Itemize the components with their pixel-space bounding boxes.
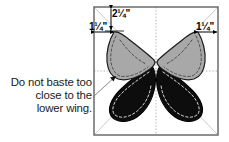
callout-text: Do not baste too close to the lower wing…	[0, 76, 92, 116]
callout-leader	[93, 76, 116, 97]
dimension-label-left: 1¼"	[89, 21, 107, 32]
dimension-label-right: 1¼"	[196, 21, 214, 32]
dimension-label-top: 2¼"	[112, 8, 130, 19]
right-wing-group	[157, 32, 206, 122]
illustration-canvas	[0, 0, 229, 142]
callout-line-1: Do not baste too	[0, 76, 92, 89]
callout-line-3: lower wing.	[0, 102, 92, 115]
callout-line-2: close to the	[0, 89, 92, 102]
butterfly-placement-figure	[0, 0, 229, 142]
